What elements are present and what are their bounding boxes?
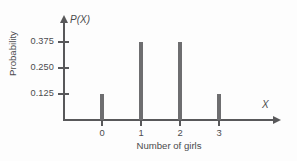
x-axis-title: Number of girls: [63, 140, 275, 151]
y-axis-tick: [58, 93, 69, 94]
x-axis-tick-label: 0: [92, 127, 112, 138]
bar: [100, 94, 103, 120]
bar: [217, 94, 220, 120]
bar: [139, 42, 142, 120]
bar: [178, 42, 181, 120]
y-axis-tick-label: 0.125: [0, 88, 54, 98]
y-axis-line: [63, 22, 65, 120]
x-axis-tick-label: 3: [209, 127, 229, 138]
y-axis-variable-label: P(X): [70, 14, 90, 25]
x-axis-line: [63, 119, 275, 121]
x-axis-tick-label: 2: [170, 127, 190, 138]
y-axis-arrowhead-icon: [60, 15, 68, 23]
x-axis-arrowhead-icon: [273, 116, 281, 124]
y-axis-tick: [58, 41, 69, 42]
x-axis-tick-label: 1: [131, 127, 151, 138]
y-axis-tick: [58, 67, 69, 68]
y-axis-tick-label-wrap: 0.125: [0, 88, 54, 100]
x-axis-variable-label: X: [262, 99, 269, 110]
probability-distribution-chart: P(X) X 0.1250.2500.375 0123 Probability …: [0, 0, 297, 161]
y-axis-title: Probability: [7, 18, 18, 90]
